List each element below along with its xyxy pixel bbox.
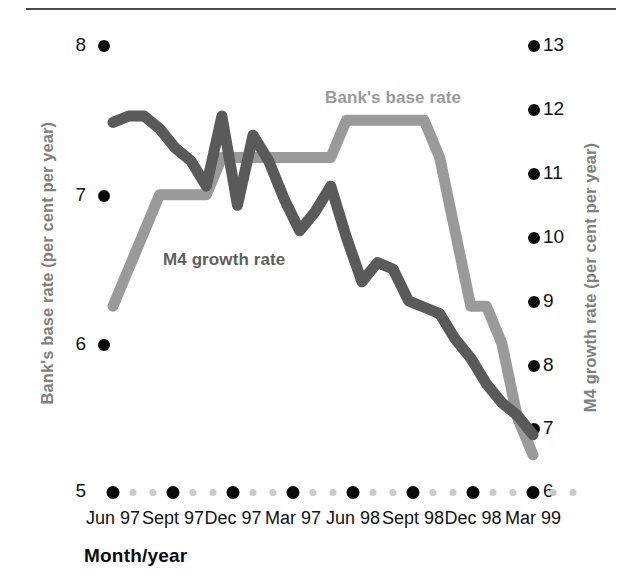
x-minor-dot bbox=[270, 489, 277, 496]
x-tick-dot-mar-99 bbox=[527, 486, 540, 499]
x-minor-dot bbox=[390, 489, 397, 496]
x-tick-dot-mar-97 bbox=[287, 486, 300, 499]
series-line-bank-base-rate bbox=[113, 120, 533, 455]
x-minor-dot bbox=[550, 489, 557, 496]
x-tick-dot-dec-98 bbox=[467, 486, 480, 499]
x-minor-dot bbox=[150, 489, 157, 496]
x-tick-dot-sept-97 bbox=[167, 486, 180, 499]
chart-canvas: Bank's base rate (per cent per year) 876… bbox=[0, 0, 638, 588]
x-minor-dot bbox=[430, 489, 437, 496]
series-label-m4-growth-rate: M4 growth rate bbox=[163, 250, 285, 270]
x-minor-dot bbox=[130, 489, 137, 496]
x-minor-dot bbox=[210, 489, 217, 496]
plot-area bbox=[0, 0, 638, 588]
x-minor-dot bbox=[190, 489, 197, 496]
x-minor-dot bbox=[370, 489, 377, 496]
x-tick-dot-jun-98 bbox=[347, 486, 360, 499]
x-axis-label-jun-98: Jun 98 bbox=[326, 508, 380, 529]
x-tick-dot-dec-97 bbox=[227, 486, 240, 499]
x-axis-label-jun-97: Jun 97 bbox=[86, 508, 140, 529]
x-minor-dot bbox=[250, 489, 257, 496]
x-minor-dot bbox=[490, 489, 497, 496]
series-line-m4-growth-rate bbox=[113, 116, 533, 435]
x-axis-label-sept-97: Sept 97 bbox=[142, 508, 204, 529]
x-minor-dot bbox=[570, 489, 577, 496]
x-tick-dot-jun-97 bbox=[107, 486, 120, 499]
x-minor-dot bbox=[310, 489, 317, 496]
x-minor-dot bbox=[450, 489, 457, 496]
x-axis-label-mar-97: Mar 97 bbox=[265, 508, 321, 529]
series-label-bank-base-rate: Bank's base rate bbox=[325, 88, 461, 108]
x-tick-dot-sept-98 bbox=[407, 486, 420, 499]
x-axis-caption: Month/year bbox=[84, 545, 187, 567]
x-axis-label-mar-99: Mar 99 bbox=[505, 508, 561, 529]
x-minor-dot bbox=[510, 489, 517, 496]
x-minor-dot bbox=[330, 489, 337, 496]
x-axis-label-dec-98: Dec 98 bbox=[444, 508, 501, 529]
x-axis-label-sept-98: Sept 98 bbox=[382, 508, 444, 529]
x-axis-label-dec-97: Dec 97 bbox=[204, 508, 261, 529]
